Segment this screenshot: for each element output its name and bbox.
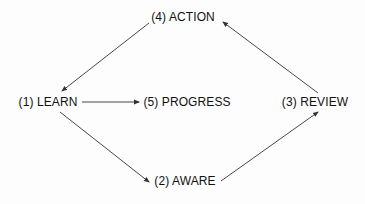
node-aware: (2) AWARE (154, 175, 215, 187)
node-learn: (1) LEARN (19, 96, 78, 108)
arrow-aware-to-review (221, 112, 318, 181)
node-review: (3) REVIEW (282, 96, 348, 108)
node-progress: (5) PROGRESS (143, 96, 230, 108)
arrow-learn-to-aware (60, 112, 149, 182)
node-action: (4) ACTION (151, 11, 215, 23)
arrow-action-to-learn (62, 23, 149, 91)
cycle-diagram: (1) LEARN (2) AWARE (3) REVIEW (4) ACTIO… (0, 0, 365, 204)
arrow-review-to-action (223, 22, 318, 93)
